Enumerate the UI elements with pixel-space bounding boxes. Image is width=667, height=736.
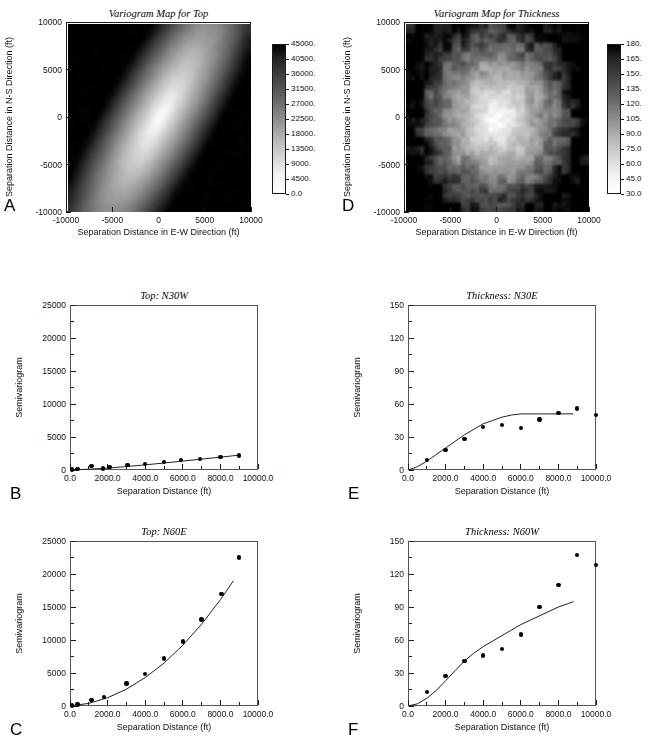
x-tick	[542, 207, 543, 212]
colorbar-tick-label: 150.	[626, 69, 642, 78]
y-tick	[71, 404, 76, 405]
y-minor-tick	[409, 557, 412, 558]
vario-y-axis-label: Semivariogram	[14, 541, 24, 706]
x-tick-label: 10000	[561, 215, 617, 225]
colorbar-tick-label: 45000.	[291, 39, 315, 48]
variogram-map-canvas-a	[68, 24, 251, 212]
x-tick	[107, 700, 108, 705]
colorbar-tick-label: 165.	[626, 54, 642, 63]
data-point	[124, 681, 128, 685]
variogram-map-a	[66, 22, 251, 212]
data-point	[462, 659, 466, 663]
y-tick-label: 0	[18, 112, 62, 122]
colorbar-tick-label: 180.	[626, 39, 642, 48]
x-tick	[483, 464, 484, 469]
vario-y-axis-label: Semivariogram	[352, 305, 362, 470]
x-tick	[158, 207, 159, 212]
y-tick	[409, 607, 414, 608]
y-tick	[409, 470, 414, 471]
colorbar-tick	[621, 179, 624, 180]
x-minor-tick	[88, 702, 89, 705]
y-tick	[409, 437, 414, 438]
y-tick	[404, 22, 409, 23]
x-tick-label: 10000.0	[228, 473, 288, 483]
map-x-axis-label: Separation Distance in E-W Direction (ft…	[404, 227, 589, 237]
data-point	[462, 437, 466, 441]
x-tick	[204, 207, 205, 212]
panel-a-title: Variogram Map for Top	[66, 8, 251, 19]
colorbar-d	[607, 44, 621, 194]
y-tick-label: 25000	[26, 536, 66, 546]
colorbar-tick	[286, 104, 289, 105]
y-tick	[66, 164, 71, 165]
y-minor-tick	[71, 420, 74, 421]
y-tick-label: 120	[364, 333, 404, 343]
y-tick	[409, 338, 414, 339]
x-minor-tick	[502, 702, 503, 705]
y-tick	[71, 640, 76, 641]
colorbar-tick-label: 75.0	[626, 144, 642, 153]
x-tick	[145, 700, 146, 705]
x-tick	[496, 207, 497, 212]
colorbar-tick	[286, 74, 289, 75]
y-minor-tick	[409, 321, 412, 322]
y-minor-tick	[71, 387, 74, 388]
data-point	[594, 563, 598, 567]
y-minor-tick	[71, 590, 74, 591]
figure-caption-fragment	[0, 726, 667, 736]
colorbar-a	[272, 44, 286, 194]
y-tick	[71, 607, 76, 608]
data-point	[237, 453, 241, 457]
y-tick	[409, 541, 414, 542]
panel-letter-b: B	[10, 484, 21, 504]
data-point	[199, 617, 203, 621]
y-tick	[404, 212, 409, 213]
y-minor-tick	[71, 453, 74, 454]
data-point	[556, 411, 560, 415]
y-minor-tick	[71, 656, 74, 657]
colorbar-tick-label: 36000.	[291, 69, 315, 78]
y-tick-label: 150	[364, 536, 404, 546]
data-point	[218, 455, 222, 459]
colorbar-tick-label: 9000.	[291, 159, 311, 168]
y-tick-label: 5000	[26, 432, 66, 442]
vario-x-axis-label: Separation Distance (ft)	[70, 486, 258, 496]
y-tick-label: 10000	[356, 17, 400, 27]
y-tick-label: 10000	[26, 399, 66, 409]
colorbar-tick	[286, 119, 289, 120]
panel-letter-e: E	[348, 484, 359, 504]
y-tick	[409, 404, 414, 405]
colorbar-tick-label: 90.0	[626, 129, 642, 138]
y-tick	[409, 574, 414, 575]
y-tick	[409, 305, 414, 306]
x-minor-tick	[426, 702, 427, 705]
y-minor-tick	[409, 354, 412, 355]
y-tick	[66, 22, 71, 23]
x-minor-tick	[577, 702, 578, 705]
vario-x-axis-label: Separation Distance (ft)	[408, 486, 596, 496]
y-tick	[71, 338, 76, 339]
colorbar-tick	[621, 89, 624, 90]
y-tick-label: 20000	[26, 333, 66, 343]
y-tick	[66, 69, 71, 70]
y-minor-tick	[409, 453, 412, 454]
x-minor-tick	[126, 702, 127, 705]
x-tick	[589, 207, 590, 212]
x-tick	[450, 207, 451, 212]
panel-c-title: Top: N60E	[60, 526, 268, 537]
colorbar-tick	[286, 149, 289, 150]
x-minor-tick	[201, 702, 202, 705]
y-tick-label: 20000	[26, 569, 66, 579]
y-tick	[71, 541, 76, 542]
y-tick-label: -5000	[356, 160, 400, 170]
x-tick-label: 10000.0	[228, 709, 288, 719]
y-tick-label: 15000	[26, 602, 66, 612]
y-tick-label: 120	[364, 569, 404, 579]
y-tick	[404, 117, 409, 118]
panel-d-title: Variogram Map for Thickness	[404, 8, 589, 19]
y-tick-label: 90	[364, 366, 404, 376]
vario-y-axis-label: Semivariogram	[352, 541, 362, 706]
vario-y-axis-label: Semivariogram	[14, 305, 24, 470]
x-minor-tick	[239, 702, 240, 705]
colorbar-tick	[621, 194, 624, 195]
